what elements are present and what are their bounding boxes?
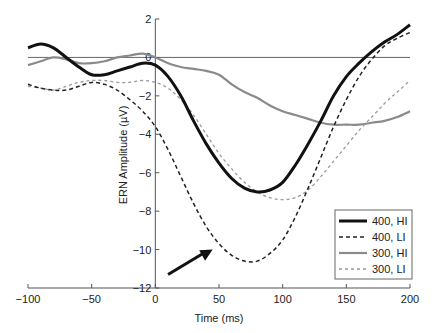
y-axis-label: ERN Amplitude (µV) bbox=[117, 106, 129, 205]
x-tick-label: 150 bbox=[337, 293, 355, 305]
series-line-400-hi bbox=[28, 25, 410, 192]
y-tick-label: −8 bbox=[139, 205, 152, 217]
y-tick-label: −6 bbox=[139, 167, 152, 179]
y-tick-label: −2 bbox=[139, 90, 152, 102]
x-tick-label: 200 bbox=[401, 293, 419, 305]
x-tick-label: −100 bbox=[16, 293, 41, 305]
y-tick-label: −4 bbox=[139, 128, 152, 140]
chart-canvas: −100−5005010015020020−2−4−6−8−10−12 400,… bbox=[0, 0, 432, 333]
legend-label: 400, LI bbox=[372, 231, 406, 243]
legend-label: 300, HI bbox=[372, 247, 407, 259]
legend-label: 300, LI bbox=[372, 263, 406, 275]
y-tick-label: 2 bbox=[145, 13, 151, 25]
series-line-300-hi bbox=[28, 54, 410, 125]
y-tick-label: −10 bbox=[133, 244, 152, 256]
arrow-shaft bbox=[168, 253, 205, 275]
series-line-300-li bbox=[28, 80, 410, 199]
legend-label: 400, HI bbox=[372, 215, 407, 227]
y-tick-label: −12 bbox=[133, 282, 152, 294]
arrow-annotation bbox=[168, 250, 213, 275]
x-axis-label: Time (ms) bbox=[194, 312, 243, 324]
x-tick-label: 100 bbox=[273, 293, 291, 305]
erp-line-chart: −100−5005010015020020−2−4−6−8−10−12 400,… bbox=[0, 0, 432, 333]
legend: 400, HI400, LI300, HI300, LI bbox=[335, 210, 412, 279]
x-tick-label: 50 bbox=[213, 293, 225, 305]
x-tick-label: −50 bbox=[82, 293, 101, 305]
x-tick-label: 0 bbox=[152, 293, 158, 305]
